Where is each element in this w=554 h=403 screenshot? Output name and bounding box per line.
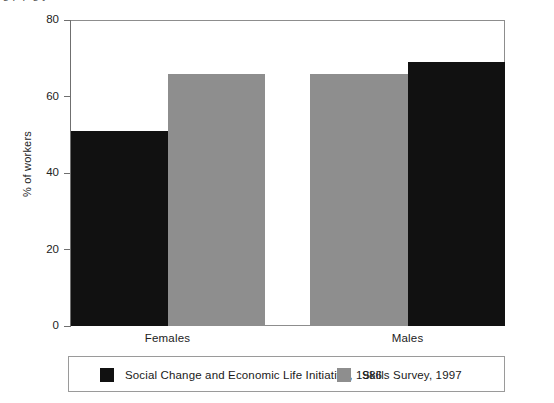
legend-swatch-icon-dark [100,368,114,382]
y-tick-mark-60 [64,96,71,97]
y-tick-label-60: 60 [46,91,59,103]
x-category-label-females: Females [70,332,265,344]
y-tick-mark-80 [64,20,71,21]
bars-layer [70,20,505,326]
bar-males-sceli-1986 [408,62,506,326]
y-axis-label: % of workers [21,109,33,219]
x-category-label-males: Males [310,332,505,344]
legend: Social Change and Economic Life Initiati… [68,356,505,392]
y-tick-label-0: 0 [53,320,59,332]
y-tick-label-20: 20 [46,244,59,256]
y-tick-mark-20 [64,249,71,250]
legend-entry-skills-1997: Skills Survey, 1997 [337,367,462,383]
y-tick-label-40: 40 [46,167,59,179]
bar-females-sceli-1986 [70,131,168,326]
bar-females-skills-1997 [168,74,266,326]
y-axis-line [70,20,71,327]
legend-label-skills-1997: Skills Survey, 1997 [362,369,462,381]
y-tick-mark-0 [64,326,71,327]
legend-swatch-icon-light [337,368,351,382]
bar-males-skills-1997 [310,74,408,326]
y-tick-label-80: 80 [46,14,59,26]
figure-title-cropped: ig p p g y [0,0,554,3]
y-tick-mark-40 [64,173,71,174]
bar-chart-figure: ig p p g y 0 20 40 60 80 % of workers Fe… [0,0,554,403]
